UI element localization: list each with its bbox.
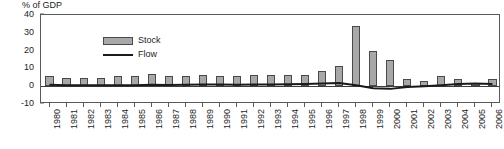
x-tick-label: 1990 xyxy=(223,109,232,129)
x-tick-mark xyxy=(457,103,458,107)
x-tick-mark xyxy=(338,103,339,107)
x-tick-mark xyxy=(253,103,254,107)
x-tick-label: 1980 xyxy=(53,109,62,129)
x-tick-label: 1983 xyxy=(104,109,113,129)
x-tick-label: 2006 xyxy=(495,109,504,129)
y-tick-label: 30 xyxy=(24,27,34,36)
y-tick-label: 0 xyxy=(29,81,34,90)
x-tick-label: 2002 xyxy=(427,109,436,129)
x-tick-label: 1992 xyxy=(257,109,266,129)
x-tick-label: 1988 xyxy=(189,109,198,129)
x-tick-label: 1985 xyxy=(138,109,147,129)
x-tick-mark xyxy=(168,103,169,107)
x-tick-mark xyxy=(236,103,237,107)
x-tick-label: 2005 xyxy=(478,109,487,129)
flow-line-path xyxy=(50,83,493,89)
x-tick-label: 1982 xyxy=(87,109,96,129)
legend-label-flow: Flow xyxy=(138,50,157,59)
x-tick-mark xyxy=(185,103,186,107)
y-tick-label: -10 xyxy=(21,99,34,108)
legend-item-stock: Stock xyxy=(103,35,161,46)
x-tick-mark xyxy=(270,103,271,107)
x-tick-mark xyxy=(202,103,203,107)
x-tick-mark xyxy=(151,103,152,107)
x-tick-label: 2000 xyxy=(393,109,402,129)
x-tick-mark xyxy=(406,103,407,107)
x-tick-label: 1998 xyxy=(359,109,368,129)
x-axis: 1980198119821983198419851986198719881989… xyxy=(40,103,500,149)
x-tick-label: 1997 xyxy=(342,109,351,129)
x-tick-mark xyxy=(440,103,441,107)
x-tick-label: 1986 xyxy=(155,109,164,129)
x-tick-label: 2001 xyxy=(410,109,419,129)
legend-bar-swatch-icon xyxy=(103,37,133,45)
plot-area: Stock Flow xyxy=(40,14,500,103)
x-tick-mark xyxy=(372,103,373,107)
chart-container: % of GDP 403020100-10 Stock Flow 1980198… xyxy=(0,0,504,149)
x-tick-mark xyxy=(321,103,322,107)
x-tick-label: 1984 xyxy=(121,109,130,129)
y-tick-label: 40 xyxy=(24,10,34,19)
legend-item-flow: Flow xyxy=(103,49,161,60)
x-tick-label: 1993 xyxy=(274,109,283,129)
x-tick-mark xyxy=(355,103,356,107)
x-tick-mark xyxy=(83,103,84,107)
x-tick-label: 1987 xyxy=(172,109,181,129)
x-tick-mark xyxy=(219,103,220,107)
x-tick-mark xyxy=(117,103,118,107)
x-tick-label: 1994 xyxy=(291,109,300,129)
x-tick-label: 1996 xyxy=(325,109,334,129)
x-tick-mark xyxy=(491,103,492,107)
legend-label-stock: Stock xyxy=(138,36,161,45)
x-tick-label: 1989 xyxy=(206,109,215,129)
x-tick-label: 1995 xyxy=(308,109,317,129)
x-tick-mark xyxy=(389,103,390,107)
x-tick-label: 2004 xyxy=(461,109,470,129)
x-tick-label: 1991 xyxy=(240,109,249,129)
x-tick-mark xyxy=(287,103,288,107)
x-tick-label: 1999 xyxy=(376,109,385,129)
legend-line-swatch-icon xyxy=(103,51,133,59)
y-axis: 403020100-10 xyxy=(0,14,40,103)
x-tick-mark xyxy=(66,103,67,107)
x-tick-mark xyxy=(304,103,305,107)
chart-legend: Stock Flow xyxy=(103,35,161,60)
x-tick-label: 1981 xyxy=(70,109,79,129)
y-tick-label: 10 xyxy=(24,63,34,72)
x-tick-mark xyxy=(49,103,50,107)
x-tick-mark xyxy=(100,103,101,107)
x-tick-mark xyxy=(474,103,475,107)
x-tick-mark xyxy=(423,103,424,107)
x-tick-label: 2003 xyxy=(444,109,453,129)
x-tick-mark xyxy=(134,103,135,107)
y-tick-label: 20 xyxy=(24,45,34,54)
